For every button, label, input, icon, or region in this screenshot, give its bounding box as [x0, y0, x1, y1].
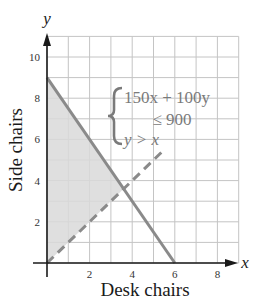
inequality-line-3: y > x [122, 130, 160, 149]
y-axis-title: Side chairs [5, 108, 26, 192]
x-axis-arrow-icon [225, 259, 238, 267]
brace-icon [108, 88, 122, 144]
y-tick-label: 6 [35, 133, 41, 145]
inequality-graph: 2468246810 y x Desk chairs Side chairs 1… [0, 0, 257, 303]
x-axis-title: Desk chairs [100, 279, 189, 300]
x-tick-label: 8 [215, 268, 221, 280]
x-tick-label: 2 [87, 268, 93, 280]
y-tick-label: 4 [35, 175, 41, 187]
y-axis-letter: y [41, 9, 51, 28]
y-tick-label: 2 [35, 216, 41, 228]
y-axis-arrow-icon [43, 33, 51, 46]
y-tick-label: 10 [29, 51, 41, 63]
inequality-line-1: 150x + 100y [124, 88, 211, 107]
y-tick-label: 8 [35, 92, 41, 104]
x-axis-letter: x [240, 253, 249, 272]
inequality-line-2: ≤ 900 [152, 110, 191, 129]
